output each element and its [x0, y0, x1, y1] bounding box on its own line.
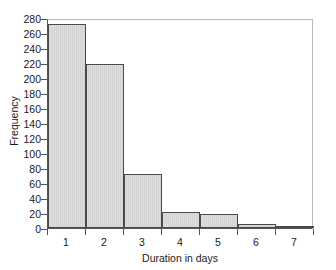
x-axis-tick-label: 2 [84, 237, 124, 248]
x-axis-tick-label: 6 [236, 237, 276, 248]
y-axis-tick-label: 280 [3, 14, 41, 25]
x-axis-tick-label: 1 [46, 237, 86, 248]
plot-area [47, 19, 313, 229]
x-axis-tick [85, 229, 86, 235]
histogram-chart: 020406080100120140160180200220240260280 … [0, 0, 336, 270]
y-axis-tick-label: 60 [3, 179, 41, 190]
bar-4 [162, 212, 200, 229]
x-axis-tick-label: 5 [198, 237, 238, 248]
x-axis-tick [161, 229, 162, 235]
bar-1 [48, 24, 86, 228]
y-axis-tick-label: 0 [3, 224, 41, 235]
x-axis-tick-label: 7 [274, 237, 314, 248]
bar-2 [86, 64, 124, 228]
x-axis-tick [313, 229, 314, 235]
x-axis-tick-label: 3 [122, 237, 162, 248]
y-axis-tick-label: 220 [3, 59, 41, 70]
x-axis-tick-label: 4 [160, 237, 200, 248]
x-axis-tick [47, 229, 48, 235]
y-axis-tick-label: 20 [3, 209, 41, 220]
bar-3 [124, 174, 162, 228]
x-axis-tick [237, 229, 238, 235]
x-axis-tick [275, 229, 276, 235]
bar-6 [238, 224, 276, 228]
bar-series [48, 20, 312, 228]
x-axis-tick [199, 229, 200, 235]
bar-7 [276, 226, 314, 228]
y-axis-tick-label: 260 [3, 29, 41, 40]
y-axis-tick-label: 240 [3, 44, 41, 55]
y-axis-tick-label: 40 [3, 194, 41, 205]
y-axis-title: Frequency [8, 71, 20, 171]
x-axis-title: Duration in days [47, 252, 313, 264]
bar-5 [200, 214, 238, 228]
x-axis-tick [123, 229, 124, 235]
y-axis-labels: 020406080100120140160180200220240260280 [0, 0, 41, 270]
